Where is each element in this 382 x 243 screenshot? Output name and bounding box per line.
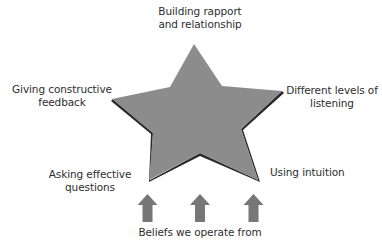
label-beliefs: Beliefs we operate from — [130, 226, 270, 239]
label-levels-of-listening: Different levels of listening — [280, 84, 382, 110]
label-building-rapport: Building rapport and relationship — [140, 5, 260, 31]
label-using-intuition: Using intuition — [262, 166, 380, 179]
label-line: Using intuition — [270, 166, 380, 179]
label-line: Asking effective — [30, 168, 150, 181]
star-diagram — [0, 0, 382, 243]
up-arrow-icon — [190, 194, 210, 222]
up-arrow-icon — [138, 194, 158, 222]
label-line: feedback — [2, 96, 122, 109]
label-line: Building rapport — [140, 5, 260, 18]
label-line: and relationship — [140, 18, 260, 31]
up-arrow-icon — [244, 194, 264, 222]
label-line: Beliefs we operate from — [130, 226, 270, 239]
label-line: questions — [30, 181, 150, 194]
label-effective-questions: Asking effective questions — [30, 168, 150, 194]
label-line: Giving constructive — [2, 83, 122, 96]
label-constructive-feedback: Giving constructive feedback — [2, 83, 122, 109]
label-line: Different levels of — [280, 84, 382, 97]
label-line: listening — [280, 97, 382, 110]
star-shape — [112, 44, 282, 180]
